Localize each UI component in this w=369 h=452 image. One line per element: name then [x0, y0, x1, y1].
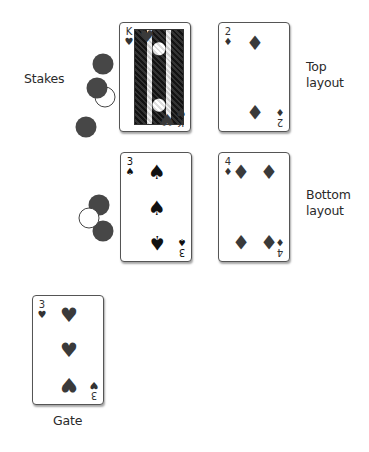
card-four-of-diamonds[interactable]: 4 ♦ ♦ ♦ ♦ ♦ 4 ♦	[218, 152, 290, 262]
diamond-icon: ♦	[246, 102, 264, 122]
bottom-layout-label-line1: Bottom	[306, 187, 351, 203]
heart-icon: ♥	[60, 340, 78, 360]
gate-label: Gate	[53, 413, 82, 429]
card-corner-top: 3 ♥	[37, 300, 47, 320]
card-corner-bottom: 4 ♦	[275, 237, 285, 257]
chip-dark	[93, 54, 114, 75]
spade-icon: ♠	[148, 198, 166, 218]
card-corner-top: K ♥	[124, 27, 134, 47]
diamond-icon: ♦	[246, 33, 264, 53]
card-corner-bottom: K ♥	[176, 107, 186, 127]
heart-icon: ♥	[60, 305, 78, 325]
diamond-icon: ♦	[275, 237, 285, 247]
top-layout-label: Top layout	[306, 59, 344, 91]
heart-icon: ♥	[160, 109, 174, 129]
spade-icon: ♠	[148, 233, 166, 253]
card-corner-bottom: 2 ♦	[275, 107, 285, 127]
card-two-of-diamonds[interactable]: 2 ♦ ♦ ♦ 2 ♦	[218, 22, 290, 132]
chip-dark	[87, 78, 108, 99]
spade-icon: ♠	[177, 237, 187, 247]
diamond-icon: ♦	[275, 107, 285, 117]
card-corner-bottom: 3 ♥	[89, 380, 99, 400]
top-layout-label-line1: Top	[306, 59, 344, 75]
bottom-layout-label: Bottom layout	[306, 187, 351, 219]
stakes-label: Stakes	[24, 71, 64, 87]
chip-white	[79, 208, 100, 229]
diamond-icon: ♦	[232, 232, 250, 252]
card-corner-top: 3 ♠	[125, 157, 135, 177]
diamond-icon: ♦	[223, 37, 233, 47]
heart-icon: ♥	[60, 375, 78, 395]
chip-dark	[76, 117, 97, 138]
heart-icon: ♥	[176, 107, 186, 117]
diamond-icon: ♦	[260, 162, 278, 182]
card-corner-bottom: 3 ♠	[177, 237, 187, 257]
heart-icon: ♥	[89, 380, 99, 390]
heart-icon: ♥	[124, 37, 134, 47]
top-layout-label-line2: layout	[306, 75, 344, 91]
heart-icon: ♥	[37, 310, 47, 320]
card-corner-top: 2 ♦	[223, 27, 233, 47]
card-king-of-hearts[interactable]: K ♥ ♥ ♥ K ♥	[119, 22, 191, 132]
heart-icon: ♥	[140, 27, 154, 47]
card-three-of-hearts-gate[interactable]: 3 ♥ ♥ ♥ ♥ 3 ♥	[32, 295, 104, 405]
diamond-icon: ♦	[232, 162, 250, 182]
spade-icon: ♠	[148, 162, 166, 182]
spade-icon: ♠	[125, 167, 135, 177]
bottom-layout-label-line2: layout	[306, 203, 351, 219]
card-three-of-spades[interactable]: 3 ♠ ♠ ♠ ♠ 3 ♠	[120, 152, 192, 262]
